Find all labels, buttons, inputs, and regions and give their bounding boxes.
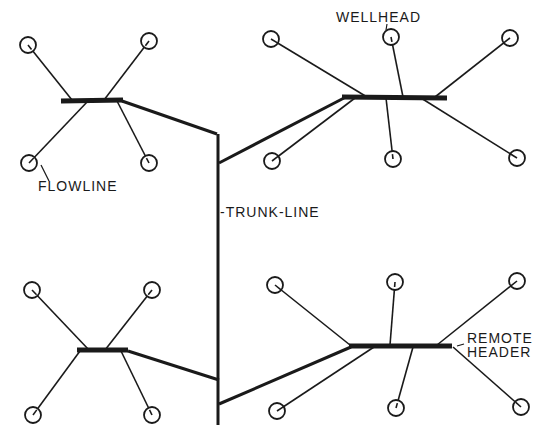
flowline — [121, 351, 152, 415]
flowline — [117, 101, 149, 163]
flowline — [275, 285, 350, 345]
flowline — [32, 290, 89, 350]
flowline — [271, 39, 367, 97]
trunk-line-label: -TRUNK-LINE — [220, 205, 320, 220]
wellhead-label: WELLHEAD — [336, 10, 421, 25]
flowline — [28, 45, 72, 100]
remote-header-leader — [457, 344, 464, 346]
flowline — [104, 41, 149, 100]
pipeline-network-drawing — [0, 0, 557, 443]
flowline — [421, 98, 517, 158]
top-left-header-to-trunk-line — [122, 101, 217, 134]
flowline — [396, 347, 413, 408]
top-right-remote-header — [342, 97, 447, 98]
top-left-remote-header — [61, 100, 123, 101]
gathering-system-diagram: WELLHEAD FLOWLINE -TRUNK-LINE REMOTE HEA… — [0, 0, 557, 443]
bottom-left-header-to-trunk-line — [128, 351, 219, 380]
flowline — [435, 38, 510, 97]
flowline — [33, 351, 80, 415]
flowline-stub — [391, 37, 392, 42]
flowline-label: FLOWLINE — [38, 179, 118, 194]
flowline — [105, 290, 152, 350]
flowline — [391, 37, 403, 97]
flowline — [386, 98, 393, 159]
remote-header-label-line2: HEADER — [467, 345, 531, 360]
flowline — [390, 282, 395, 345]
flowline — [29, 101, 88, 163]
flowline-stub — [392, 154, 393, 159]
